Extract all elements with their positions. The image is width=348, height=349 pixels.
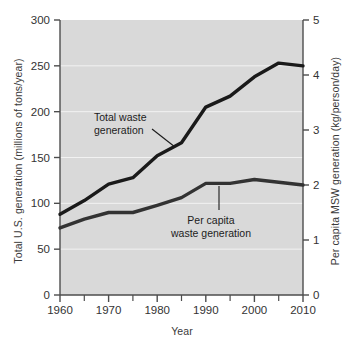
total-waste-annotation-line2: generation xyxy=(94,124,147,137)
per-capita-annotation-line2: waste generation xyxy=(171,227,251,240)
y-axis-title-left: Total U.S. generation (millions of tons/… xyxy=(12,36,24,286)
ytick-150: 150 xyxy=(31,152,50,164)
xtick-1990: 1990 xyxy=(193,304,219,316)
right-axis xyxy=(303,20,309,295)
per-capita-annotation: Per capita waste generation xyxy=(171,214,251,239)
left-axis xyxy=(54,20,60,295)
xtick-1980: 1980 xyxy=(144,304,170,316)
total-waste-annotation-line1: Total waste xyxy=(94,111,147,124)
ytick-250: 250 xyxy=(31,60,50,72)
y2tick-2: 2 xyxy=(313,179,319,191)
x-axis-title: Year xyxy=(60,325,304,337)
xtick-2000: 2000 xyxy=(242,304,268,316)
xtick-1960: 1960 xyxy=(47,304,73,316)
y2tick-3: 3 xyxy=(313,124,319,136)
waste-generation-chart: 0 50 100 150 200 250 300 0 1 2 3 4 5 196… xyxy=(0,0,348,349)
xtick-2010: 2010 xyxy=(290,304,316,316)
ytick-200: 200 xyxy=(31,106,50,118)
left-tick-labels: 0 50 100 150 200 250 300 xyxy=(31,14,50,301)
ytick-50: 50 xyxy=(37,243,50,255)
per-capita-annotation-line1: Per capita xyxy=(171,214,251,227)
y2tick-1: 1 xyxy=(313,234,319,246)
y-axis-title-right: Per capita MSW generation (kg/person/day… xyxy=(329,36,341,286)
ytick-100: 100 xyxy=(31,197,50,209)
ytick-300: 300 xyxy=(31,14,50,26)
y2tick-5: 5 xyxy=(313,14,319,26)
y2tick-4: 4 xyxy=(313,69,320,81)
ytick-0: 0 xyxy=(44,289,50,301)
right-tick-labels: 0 1 2 3 4 5 xyxy=(313,14,320,301)
x-tick-labels: 1960 1970 1980 1990 2000 2010 xyxy=(47,304,316,316)
y2tick-0: 0 xyxy=(313,289,319,301)
xtick-1970: 1970 xyxy=(96,304,122,316)
total-waste-annotation: Total waste generation xyxy=(94,111,147,136)
x-axis-minor-ticks xyxy=(84,295,278,301)
